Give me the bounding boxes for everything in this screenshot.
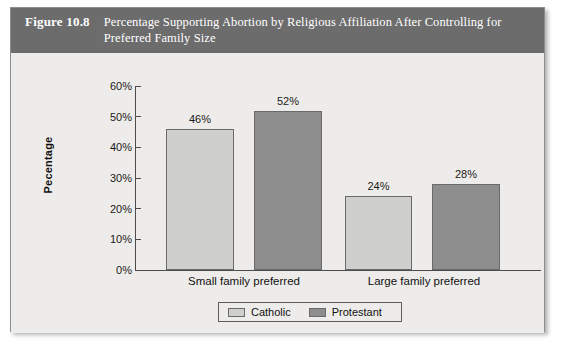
y-axis-tick-label: 10% <box>110 233 136 245</box>
chart-legend: CatholicProtestant <box>218 302 402 322</box>
y-axis-tick: 60% <box>81 80 141 92</box>
chart-plot-area: Pecentage 60%50%40%30%20%10%0% 46%52%24%… <box>11 53 544 333</box>
bar-value-label: 28% <box>432 168 500 180</box>
y-axis-tick: 30% <box>81 172 141 184</box>
x-axis-line <box>135 270 541 271</box>
category-label-large-family: Large family preferred <box>331 275 517 287</box>
figure-number: Figure 10.8 <box>25 14 104 30</box>
y-axis-tick-mark <box>136 116 141 117</box>
category-label-small-family: Small family preferred <box>151 275 337 287</box>
y-axis-tick-mark <box>136 270 141 271</box>
bar-catholic-small-family <box>166 129 234 270</box>
y-axis-tick-mark <box>136 86 141 87</box>
legend-swatch-icon <box>228 308 245 317</box>
y-axis-tick-mark <box>136 239 141 240</box>
legend-label: Catholic <box>251 306 291 318</box>
bar-value-label: 52% <box>254 95 322 107</box>
y-axis-tick: 0% <box>81 264 141 276</box>
bar-protestant-large-family <box>432 184 500 270</box>
legend-swatch-icon <box>309 308 326 317</box>
y-axis-tick-mark <box>136 178 141 179</box>
y-axis-tick: 40% <box>81 141 141 153</box>
legend-entry-protestant: Protestant <box>309 306 392 318</box>
y-axis-tick: 20% <box>81 203 141 215</box>
figure-panel: Figure 10.8 Percentage Supporting Aborti… <box>10 7 545 332</box>
figure-title: Percentage Supporting Abortion by Religi… <box>104 14 530 46</box>
y-axis-tick: 10% <box>81 233 141 245</box>
y-axis-tick-label: 50% <box>110 111 136 123</box>
bar-protestant-small-family <box>254 111 322 270</box>
y-axis-tick-mark <box>136 208 141 209</box>
y-axis-tick-mark <box>136 147 141 148</box>
y-axis-tick-label: 40% <box>110 141 136 153</box>
legend-label: Protestant <box>332 306 382 318</box>
figure-caption-bar: Figure 10.8 Percentage Supporting Aborti… <box>11 8 544 53</box>
y-axis-tick: 50% <box>81 111 141 123</box>
bar-value-label: 24% <box>345 180 412 192</box>
y-axis-tick-label: 20% <box>110 203 136 215</box>
y-axis-tick-label: 30% <box>110 172 136 184</box>
legend-entry-catholic: Catholic <box>228 306 301 318</box>
y-axis-tick-label: 60% <box>110 80 136 92</box>
bar-value-label: 46% <box>166 113 234 125</box>
y-axis-title: Pecentage <box>42 105 54 225</box>
bar-catholic-large-family <box>345 196 412 270</box>
y-axis-tick-label: 0% <box>116 264 136 276</box>
